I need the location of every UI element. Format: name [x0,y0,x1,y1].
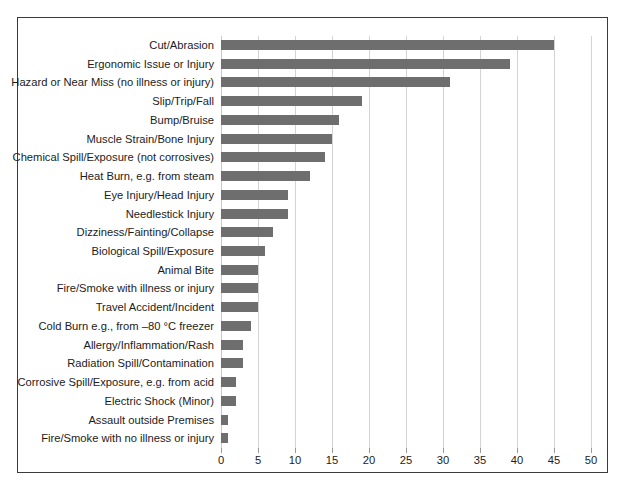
bar-row: Hazard or Near Miss (no illness or injur… [221,73,591,92]
x-tick-label: 5 [255,454,261,466]
bar-row: Heat Burn, e.g. from steam [221,167,591,186]
x-tick-10 [295,448,296,453]
x-tick-5 [258,448,259,453]
bar [221,40,554,50]
bar-chart-figure: Cut/AbrasionErgonomic Issue or InjuryHaz… [0,0,626,492]
category-label: Cold Burn e.g., from –80 °C freezer [39,317,214,336]
bar-row: Travel Accident/Incident [221,298,591,317]
category-label: Animal Bite [157,261,214,280]
x-tick-35 [480,448,481,453]
bar [221,115,339,125]
bar-rows: Cut/AbrasionErgonomic Issue or InjuryHaz… [221,36,591,448]
bar [221,415,228,425]
bar-row: Fire/Smoke with illness or injury [221,279,591,298]
category-label: Radiation Spill/Contamination [67,354,214,373]
category-label: Fire/Smoke with no illness or injury [41,429,214,448]
bar [221,340,243,350]
x-tick-50 [591,448,592,453]
x-tick-label: 0 [218,454,224,466]
x-tick-label: 45 [548,454,560,466]
category-label: Eye Injury/Head Injury [104,186,214,205]
bar [221,171,310,181]
bar [221,433,228,443]
bar-row: Corrosive Spill/Exposure, e.g. from acid [221,373,591,392]
x-tick-label: 50 [585,454,597,466]
bar [221,265,258,275]
bar [221,396,236,406]
category-label: Electric Shock (Minor) [105,392,214,411]
bar-row: Electric Shock (Minor) [221,392,591,411]
category-label: Heat Burn, e.g. from steam [80,167,214,186]
bar-row: Bump/Bruise [221,111,591,130]
bar-row: Fire/Smoke with no illness or injury [221,429,591,448]
x-tick-label: 25 [400,454,412,466]
x-tick-40 [517,448,518,453]
bar [221,321,251,331]
category-label: Needlestick Injury [126,205,214,224]
bar [221,377,236,387]
x-tick-20 [369,448,370,453]
x-axis: 05101520253035404550 [221,448,591,474]
category-label: Slip/Trip/Fall [152,92,214,111]
x-tick-label: 35 [474,454,486,466]
category-label: Travel Accident/Incident [96,298,214,317]
bar-row: Eye Injury/Head Injury [221,186,591,205]
bar-row: Ergonomic Issue or Injury [221,55,591,74]
bar-row: Biological Spill/Exposure [221,242,591,261]
bar [221,77,450,87]
bar-row: Animal Bite [221,261,591,280]
category-label: Assault outside Premises [88,411,214,430]
category-label: Muscle Strain/Bone Injury [87,130,214,149]
gridline-50 [591,36,592,448]
x-tick-label: 40 [511,454,523,466]
category-label: Dizziness/Fainting/Collapse [77,223,214,242]
x-tick-label: 30 [437,454,449,466]
category-label: Ergonomic Issue or Injury [87,55,214,74]
plot-area: Cut/AbrasionErgonomic Issue or InjuryHaz… [221,36,591,448]
bar [221,190,288,200]
bar [221,227,273,237]
category-label: Bump/Bruise [150,111,214,130]
bar [221,59,510,69]
category-label: Chemical Spill/Exposure (not corrosives) [13,148,214,167]
bar-row: Slip/Trip/Fall [221,92,591,111]
category-label: Cut/Abrasion [149,36,214,55]
category-label: Fire/Smoke with illness or injury [57,279,214,298]
x-tick-25 [406,448,407,453]
x-tick-30 [443,448,444,453]
bar-row: Chemical Spill/Exposure (not corrosives) [221,148,591,167]
chart-frame: Cut/AbrasionErgonomic Issue or InjuryHaz… [17,17,608,473]
bar [221,134,332,144]
bar-row: Needlestick Injury [221,205,591,224]
category-label: Hazard or Near Miss (no illness or injur… [11,73,214,92]
category-label: Biological Spill/Exposure [91,242,214,261]
bar [221,283,258,293]
bar-row: Allergy/Inflammation/Rash [221,336,591,355]
x-tick-label: 20 [363,454,375,466]
bar-row: Radiation Spill/Contamination [221,354,591,373]
x-tick-label: 10 [289,454,301,466]
bar-row: Cold Burn e.g., from –80 °C freezer [221,317,591,336]
x-tick-15 [332,448,333,453]
x-tick-45 [554,448,555,453]
bar-row: Cut/Abrasion [221,36,591,55]
bar [221,152,325,162]
bar-row: Dizziness/Fainting/Collapse [221,223,591,242]
bar [221,358,243,368]
bar-row: Muscle Strain/Bone Injury [221,130,591,149]
bar [221,246,265,256]
x-tick-0 [221,448,222,453]
bar [221,209,288,219]
x-tick-label: 15 [326,454,338,466]
category-label: Allergy/Inflammation/Rash [83,336,214,355]
category-label: Corrosive Spill/Exposure, e.g. from acid [18,373,214,392]
bar [221,302,258,312]
bar-row: Assault outside Premises [221,411,591,430]
bar [221,96,362,106]
